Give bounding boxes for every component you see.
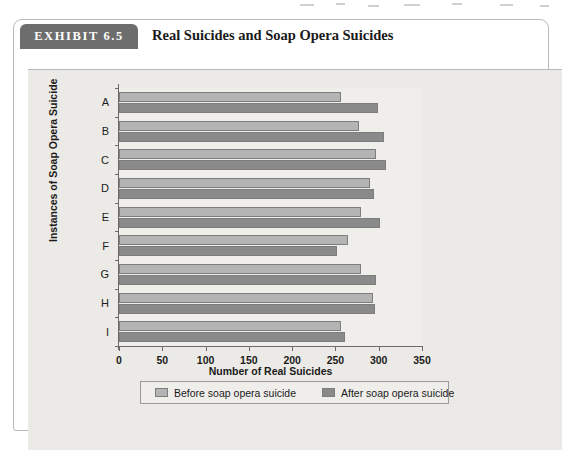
- y-axis-tick: [115, 231, 119, 232]
- y-axis-tick: [115, 174, 119, 175]
- x-axis-tick: [249, 346, 250, 351]
- y-axis-tick: [115, 260, 119, 261]
- bar-before-E: [119, 207, 361, 217]
- x-axis-tick: [119, 346, 120, 351]
- bar-before-I: [119, 321, 341, 331]
- scan-artifact-strip: [0, 0, 569, 12]
- bar-after-H: [119, 304, 375, 314]
- x-axis-tick: [379, 346, 380, 351]
- bar-after-F: [119, 246, 337, 256]
- x-axis-tick: [292, 346, 293, 351]
- y-axis-category-label: A: [102, 96, 109, 108]
- y-axis-tick: [115, 203, 119, 204]
- exhibit-tab: EXHIBIT 6.5: [20, 24, 138, 49]
- legend-swatch-after: [322, 388, 335, 397]
- bar-after-D: [119, 189, 374, 199]
- y-axis-tick: [115, 289, 119, 290]
- bar-after-C: [119, 160, 386, 170]
- y-axis-tick: [115, 346, 119, 347]
- bar-before-D: [119, 178, 370, 188]
- y-axis-category-label: H: [101, 297, 109, 309]
- x-axis-tick: [335, 346, 336, 351]
- bar-before-A: [119, 92, 341, 102]
- x-axis-tick: [422, 346, 423, 351]
- exhibit-card: 050100150200250300350ABCDEFGHI Instances…: [13, 19, 549, 431]
- legend-entry-after: After soap opera suicide: [322, 387, 454, 399]
- x-axis-tick: [162, 346, 163, 351]
- bar-after-I: [119, 332, 345, 342]
- chart-legend: Before soap opera suicide After soap ope…: [140, 381, 449, 404]
- y-axis-category-label: D: [101, 182, 109, 194]
- scan-speck: [368, 5, 379, 7]
- x-axis-title: Number of Real Suicides: [119, 365, 422, 377]
- scan-speck: [540, 5, 549, 7]
- y-axis-tick: [115, 88, 119, 89]
- y-axis-category-label: F: [102, 240, 109, 252]
- scan-speck: [336, 3, 345, 5]
- y-axis-tick: [115, 145, 119, 146]
- bar-before-B: [119, 121, 359, 131]
- chart-canvas: 050100150200250300350ABCDEFGHI Instances…: [28, 70, 562, 450]
- bar-after-E: [119, 218, 380, 228]
- x-axis-line: [118, 346, 423, 347]
- bar-after-B: [119, 132, 384, 142]
- legend-entry-before: Before soap opera suicide: [155, 387, 296, 399]
- y-axis-category-label: I: [106, 326, 109, 338]
- legend-swatch-before: [155, 388, 168, 397]
- y-axis-tick: [115, 117, 119, 118]
- x-axis-tick: [206, 346, 207, 351]
- bar-before-F: [119, 235, 348, 245]
- y-axis-category-label: G: [100, 268, 109, 280]
- plot-area: 050100150200250300350ABCDEFGHI: [119, 88, 422, 346]
- bar-before-H: [119, 293, 373, 303]
- y-axis-tick: [115, 317, 119, 318]
- scan-speck: [500, 4, 513, 6]
- y-axis-category-label: B: [102, 125, 109, 137]
- y-axis-category-label: C: [101, 154, 109, 166]
- bar-after-A: [119, 103, 378, 113]
- exhibit-title: Real Suicides and Soap Opera Suicides: [152, 27, 393, 44]
- legend-label-before: Before soap opera suicide: [174, 387, 296, 399]
- legend-label-after: After soap opera suicide: [341, 387, 454, 399]
- scan-speck: [404, 4, 420, 6]
- bar-before-G: [119, 264, 361, 274]
- bar-before-C: [119, 149, 376, 159]
- y-axis-title: Instances of Soap Opera Suicide: [47, 79, 59, 242]
- y-axis-category-label: E: [102, 211, 109, 223]
- bar-after-G: [119, 275, 376, 285]
- scan-speck: [300, 4, 314, 6]
- scan-speck: [452, 3, 462, 5]
